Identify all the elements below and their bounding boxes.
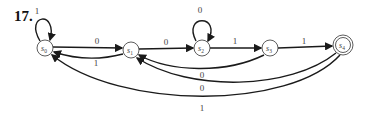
edge-label-s3-s1: 0 (200, 70, 205, 80)
edge-s2-s2 (193, 21, 211, 41)
state-s3: s3 (262, 40, 278, 56)
edge-label-s2-s2: 0 (198, 5, 203, 15)
edge-label-s3-s4: 1 (302, 36, 307, 46)
edge-label-s0-s1: 0 (95, 36, 100, 46)
edge-label-s4-s1: 0 (200, 83, 205, 93)
edge-label-s1-s2: 0 (164, 37, 169, 47)
edge-s1-s2 (139, 48, 193, 49)
edge-s0-s0 (36, 19, 52, 41)
edge-label-s2-s3: 1 (233, 36, 238, 46)
edge-label-s0-s0: 1 (35, 6, 40, 16)
edge-s3-s4 (278, 46, 332, 48)
state-s2: s2 (194, 40, 210, 56)
edge-s1-s0 (54, 52, 123, 58)
state-diagram: 1 0 1 0 0 1 1 0 0 1 s0 s1 s2 s3 s4 (0, 0, 379, 119)
edge-label-s1-s0: 1 (94, 58, 99, 68)
state-s1: s1 (123, 42, 139, 58)
state-s0: s0 (37, 40, 53, 56)
state-s4-accepting: s4 (333, 35, 353, 55)
edge-label-s4-s0: 1 (200, 103, 205, 113)
edge-s3-s1 (139, 55, 264, 69)
edge-s0-s1 (53, 47, 122, 48)
